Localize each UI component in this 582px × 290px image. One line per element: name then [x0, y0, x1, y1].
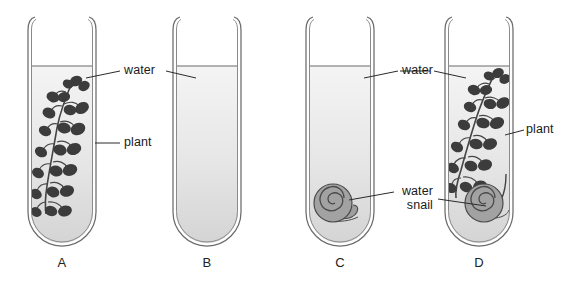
- diagram-canvas: water plant water plant water snail A B …: [0, 0, 582, 290]
- label-water-snail: water snail: [355, 185, 433, 212]
- tube-a-group: [28, 17, 96, 246]
- label-water-snail-line2: snail: [355, 199, 433, 213]
- tube-letter-a: A: [42, 255, 82, 270]
- tube-b-group: [173, 17, 241, 246]
- tube-letter-b: B: [187, 255, 227, 270]
- label-plant-left: plant: [124, 136, 152, 150]
- tube-d-group: [443, 17, 513, 246]
- tube-b-water-fill: [176, 66, 238, 243]
- tube-letter-d: D: [459, 255, 499, 270]
- label-water-right: water: [402, 64, 433, 78]
- test-tube-diagram-svg: [0, 0, 582, 290]
- label-plant-right: plant: [526, 123, 554, 137]
- tube-letter-c: C: [320, 255, 360, 270]
- label-water-snail-line1: water: [355, 185, 433, 199]
- label-water-left: water: [124, 64, 155, 78]
